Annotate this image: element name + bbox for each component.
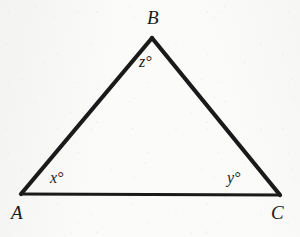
angle-label-x: x°	[50, 170, 64, 186]
vertex-label-a: A	[11, 203, 23, 222]
triangle-side-ab	[21, 38, 152, 194]
triangle-side-ca	[21, 194, 280, 195]
geometry-figure: B z° x° y° A C	[0, 0, 300, 237]
triangle-abc	[0, 0, 300, 237]
angle-label-y: y°	[227, 170, 241, 186]
angle-label-z: z°	[139, 54, 152, 70]
vertex-label-c: C	[271, 203, 284, 222]
vertex-label-b: B	[147, 8, 159, 27]
triangle-side-bc	[152, 38, 280, 195]
